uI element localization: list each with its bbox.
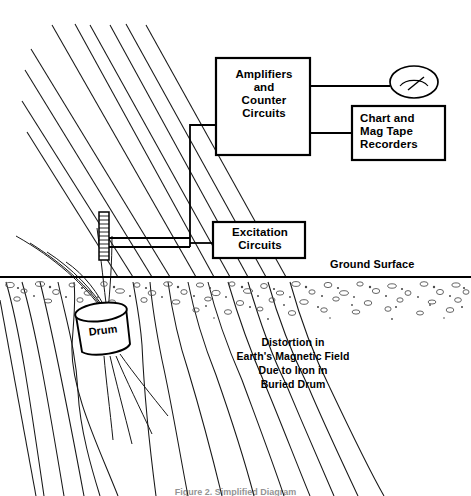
amplifiers-counter-circuits-box[interactable] xyxy=(216,58,310,155)
chart-mag-tape-recorders-box[interactable] xyxy=(352,106,445,160)
field-lines-below-ground xyxy=(0,282,384,496)
field-lines-drum-exit xyxy=(104,354,168,444)
diagram-canvas xyxy=(0,0,471,496)
excitation-circuits-box[interactable] xyxy=(213,222,305,258)
analog-meter-icon xyxy=(390,66,438,98)
figure-caption: Figure 2. Simplified Diagram xyxy=(0,487,471,496)
coil-probe-icon xyxy=(99,212,109,260)
field-lines-converging xyxy=(16,228,112,312)
